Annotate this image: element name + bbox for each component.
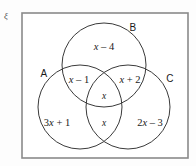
set-label-c: C bbox=[166, 74, 173, 84]
venn-diagram: ξ ABC x – 4x – 1x + 2xx3x + 12x – 3 bbox=[0, 0, 196, 166]
set-label-a: A bbox=[41, 69, 48, 79]
universal-set-symbol: ξ bbox=[4, 12, 8, 21]
region-label-a-and-b: x – 1 bbox=[69, 75, 89, 86]
region-label-a-b-c: x bbox=[102, 92, 106, 102]
region-label-a-and-c: x bbox=[102, 119, 106, 129]
region-label-c-only: 2x – 3 bbox=[137, 118, 163, 129]
universal-set-rectangle bbox=[22, 13, 188, 158]
region-label-a-only: 3x + 1 bbox=[44, 118, 70, 129]
region-label-b-only: x – 4 bbox=[94, 42, 114, 53]
set-label-b: B bbox=[130, 23, 137, 33]
region-label-b-and-c: x + 2 bbox=[119, 75, 140, 86]
